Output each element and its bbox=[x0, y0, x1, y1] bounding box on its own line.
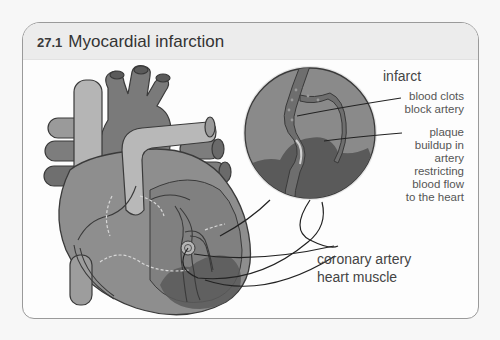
pulmonary-trunk-opening bbox=[205, 117, 215, 137]
infarct-inset bbox=[240, 66, 388, 210]
leader-coronary-2 bbox=[300, 200, 338, 247]
label-infarct: infarct bbox=[383, 70, 421, 83]
label-coronary-artery: coronary artery bbox=[317, 251, 411, 267]
label-blood-clots: blood clots block artery bbox=[402, 90, 464, 116]
inferior-vena-cava bbox=[70, 255, 92, 305]
label-plaque: plaque buildup in artery restricting blo… bbox=[402, 126, 464, 204]
label-heart-muscle: heart muscle bbox=[317, 269, 397, 285]
